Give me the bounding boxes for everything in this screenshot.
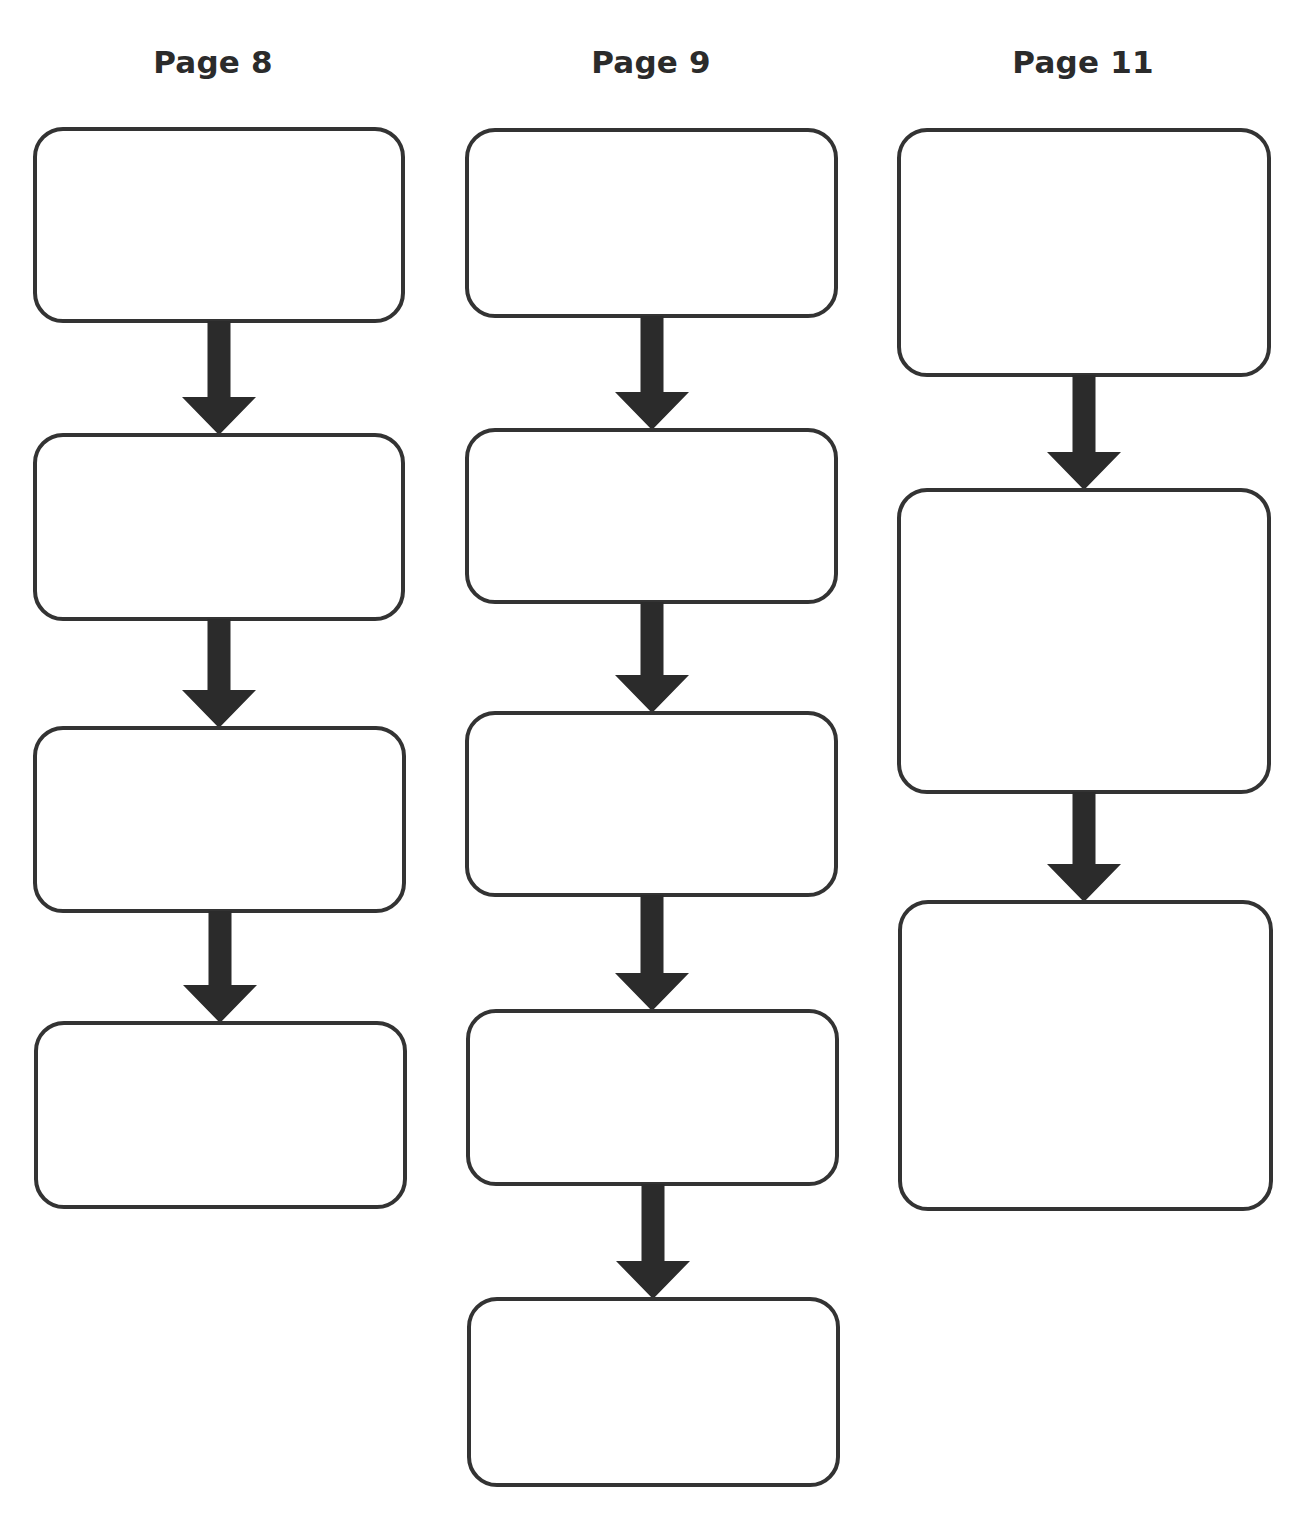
column-title-page-8: Page 8 [113, 38, 313, 86]
flow-box-page-8-step-4 [34, 1021, 407, 1209]
flow-box-page-11-step-2 [897, 488, 1271, 794]
down-arrow-icon [1047, 375, 1121, 490]
down-arrow-icon [616, 1184, 690, 1299]
flow-box-page-9-step-5 [467, 1297, 840, 1487]
down-arrow-icon [615, 602, 689, 713]
column-title-page-11: Page 11 [983, 38, 1183, 86]
flow-box-page-9-step-2 [465, 428, 838, 604]
flow-box-page-9-step-1 [465, 128, 838, 318]
down-arrow-icon [182, 321, 256, 435]
flow-box-page-9-step-3 [465, 711, 838, 897]
down-arrow-icon [615, 316, 689, 430]
flowchart-canvas: Page 8 Page 9 Page 11 [0, 0, 1306, 1526]
down-arrow-icon [615, 895, 689, 1011]
down-arrow-icon [182, 619, 256, 728]
down-arrow-icon [183, 911, 257, 1023]
flow-box-page-8-step-2 [33, 433, 405, 621]
down-arrow-icon [1047, 792, 1121, 902]
column-title-page-9: Page 9 [551, 38, 751, 86]
flow-box-page-11-step-3 [898, 900, 1273, 1211]
flow-box-page-8-step-3 [33, 726, 406, 913]
flow-box-page-9-step-4 [466, 1009, 839, 1186]
flow-box-page-8-step-1 [33, 127, 405, 323]
flow-box-page-11-step-1 [897, 128, 1271, 377]
